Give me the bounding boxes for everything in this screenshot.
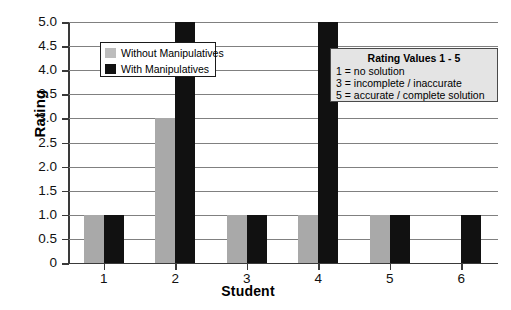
y-axis-tick xyxy=(62,191,69,193)
y-tick-label: 3.5 xyxy=(13,87,57,101)
y-tick-label: 2.5 xyxy=(13,136,57,150)
y-tick-label: 4.0 xyxy=(13,63,57,77)
gridline xyxy=(69,263,498,264)
bar-chart-figure: Rating Student 5.04.54.03.53.02.52.01.51… xyxy=(0,0,511,310)
y-axis-tick xyxy=(62,167,69,169)
rating-values-title: Rating Values 1 - 5 xyxy=(336,52,492,64)
bar-without-student-2 xyxy=(155,118,175,263)
y-tick-label: 5.0 xyxy=(13,15,57,29)
bar-with-student-6 xyxy=(461,215,481,263)
y-tick-label: 0 xyxy=(13,256,57,270)
rating-values-annotation: Rating Values 1 - 5 1 = no solution 3 = … xyxy=(330,48,498,102)
x-tick-label: 5 xyxy=(370,272,410,286)
y-axis-tick xyxy=(62,239,69,241)
y-tick-label: 1.5 xyxy=(13,184,57,198)
chart-legend: Without Manipulatives With Manipulatives xyxy=(100,42,216,77)
rating-values-line-3: 3 = incomplete / inaccurate xyxy=(336,77,492,89)
bar-without-student-5 xyxy=(370,215,390,263)
legend-swatch-with-icon xyxy=(105,64,116,74)
legend-label-with: With Manipulatives xyxy=(121,64,209,75)
bar-with-student-1 xyxy=(104,215,124,263)
y-axis-tick xyxy=(62,263,69,265)
legend-entry-without: Without Manipulatives xyxy=(105,46,211,60)
y-axis-tick xyxy=(62,94,69,96)
legend-entry-with: With Manipulatives xyxy=(105,62,211,76)
legend-swatch-without-icon xyxy=(105,48,116,58)
bar-without-student-4 xyxy=(298,215,318,263)
y-tick-label: 3.0 xyxy=(13,111,57,125)
y-tick-label: 1.0 xyxy=(13,208,57,222)
y-axis-tick xyxy=(62,118,69,120)
y-tick-label: 2.0 xyxy=(13,160,57,174)
x-axis-tick xyxy=(175,263,176,270)
rating-values-line-1: 1 = no solution xyxy=(336,65,492,77)
y-axis-tick xyxy=(62,46,69,48)
legend-label-without: Without Manipulatives xyxy=(121,48,224,59)
y-tick-label: 0.5 xyxy=(13,232,57,246)
y-tick-label: 4.5 xyxy=(13,39,57,53)
bar-with-student-3 xyxy=(247,215,267,263)
y-axis-tick xyxy=(62,70,69,72)
x-tick-label: 1 xyxy=(84,272,124,286)
x-axis-tick xyxy=(247,263,248,270)
rating-values-line-5: 5 = accurate / complete solution xyxy=(336,89,492,101)
bar-with-student-5 xyxy=(390,215,410,263)
y-axis-tick xyxy=(62,215,69,217)
x-axis-tick xyxy=(461,263,462,270)
bar-without-student-1 xyxy=(84,215,104,263)
x-axis-tick xyxy=(104,263,105,270)
x-tick-label: 2 xyxy=(155,272,195,286)
x-axis-tick xyxy=(390,263,391,270)
x-tick-label: 3 xyxy=(227,272,267,286)
y-axis-tick xyxy=(62,143,69,145)
x-tick-label: 6 xyxy=(441,272,481,286)
y-axis-tick xyxy=(62,22,69,24)
x-tick-label: 4 xyxy=(298,272,338,286)
x-axis-tick xyxy=(318,263,319,270)
bar-without-student-3 xyxy=(227,215,247,263)
